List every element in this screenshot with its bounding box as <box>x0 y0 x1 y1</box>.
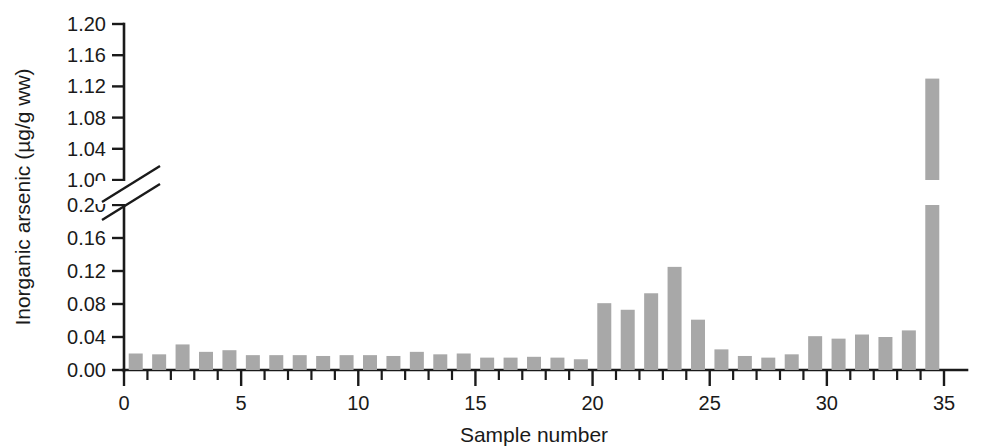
bar <box>761 358 775 370</box>
x-tick-label: 5 <box>236 392 247 414</box>
bar <box>246 355 260 370</box>
bar <box>902 330 916 370</box>
bar <box>316 356 330 370</box>
bar <box>644 293 658 370</box>
x-tick-label: 25 <box>699 392 721 414</box>
bar <box>410 352 424 370</box>
bar <box>855 335 869 370</box>
bar-lower-segment <box>925 205 939 370</box>
y-tick-label: 0.04 <box>67 326 106 348</box>
bar <box>691 320 705 370</box>
y-tick-label: 1.12 <box>67 75 106 97</box>
bar <box>222 350 236 370</box>
bar <box>152 354 166 370</box>
x-tick-label: 15 <box>464 392 486 414</box>
bar <box>293 355 307 370</box>
x-axis: 05101520253035 <box>118 370 967 414</box>
bar <box>878 337 892 370</box>
bar <box>340 355 354 370</box>
x-tick-label: 10 <box>347 392 369 414</box>
bar <box>129 354 143 371</box>
bar <box>574 359 588 370</box>
bar <box>785 354 799 370</box>
bar <box>550 358 564 370</box>
bar <box>433 354 447 370</box>
y-tick-label: 0.08 <box>67 293 106 315</box>
y-tick-label: 1.20 <box>67 13 106 35</box>
y-tick-label: 1.08 <box>67 107 106 129</box>
bar <box>386 356 400 370</box>
bar-series <box>129 79 940 370</box>
bar <box>527 357 541 370</box>
x-tick-label: 0 <box>118 392 129 414</box>
y-tick-label: 1.16 <box>67 44 106 66</box>
bar <box>668 267 682 370</box>
y-tick-label: 0.12 <box>67 260 106 282</box>
bar <box>457 354 471 371</box>
chart-figure: 1.001.041.081.121.161.200.000.040.080.12… <box>0 0 984 448</box>
bar-upper-segment <box>925 79 939 180</box>
bar <box>832 339 846 370</box>
bar <box>199 352 213 370</box>
bar <box>714 349 728 370</box>
bar <box>504 358 518 370</box>
bar <box>597 303 611 370</box>
bar <box>176 344 190 370</box>
y-tick-label: 1.04 <box>67 138 106 160</box>
bar-chart-svg: 1.001.041.081.121.161.200.000.040.080.12… <box>0 0 984 448</box>
x-tick-label: 20 <box>581 392 603 414</box>
x-tick-label: 35 <box>933 392 955 414</box>
bar <box>738 356 752 370</box>
y-tick-label: 0.16 <box>67 227 106 249</box>
bar <box>480 358 494 370</box>
y-tick-label: 0.00 <box>67 359 106 381</box>
bar <box>269 355 283 370</box>
bar <box>808 336 822 370</box>
y-axis-title: Inorganic arsenic (µg/g ww) <box>11 68 34 325</box>
bar <box>363 355 377 370</box>
bar <box>621 310 635 370</box>
x-axis-title: Sample number <box>460 423 608 446</box>
x-tick-label: 30 <box>816 392 838 414</box>
